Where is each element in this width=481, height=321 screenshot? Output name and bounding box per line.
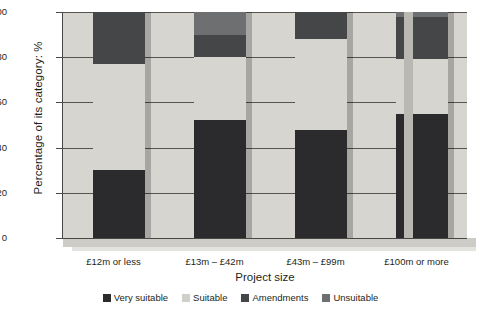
bar-segment[interactable]: [295, 12, 347, 39]
bar-side-face: [448, 12, 454, 238]
bar-segment[interactable]: [194, 12, 246, 35]
legend-item[interactable]: Very suitable: [103, 292, 168, 303]
y-tick-label: 0: [0, 232, 7, 243]
legend-swatch-icon: [322, 294, 330, 302]
legend-item[interactable]: Unsuitable: [322, 292, 378, 303]
bar-segment[interactable]: [194, 57, 246, 120]
bar-group: [366, 12, 467, 238]
legend-label: Suitable: [193, 292, 227, 303]
legend-label: Very suitable: [114, 292, 168, 303]
bar-group: [265, 12, 366, 238]
bar-segment[interactable]: [194, 35, 246, 58]
plot-wall-side-face: [404, 12, 413, 238]
x-axis-title: Project size: [63, 271, 467, 283]
bar-segment[interactable]: [93, 170, 145, 238]
y-tick-label: 100: [0, 6, 7, 17]
y-tick-label: 20: [0, 187, 7, 198]
y-tick-label: 40: [0, 142, 7, 153]
bar-segment[interactable]: [295, 39, 347, 129]
bar-segment[interactable]: [93, 64, 145, 170]
stacked-bar[interactable]: [93, 12, 145, 238]
bar-segment[interactable]: [295, 130, 347, 238]
legend-swatch-icon: [241, 294, 249, 302]
legend-swatch-icon: [182, 294, 190, 302]
legend-label: Amendments: [252, 292, 308, 303]
stacked-bar[interactable]: [295, 12, 347, 238]
bar-chart: Percentage of its category: % 0204060801…: [0, 0, 481, 321]
bar-side-face: [347, 12, 353, 238]
plot-floor: [63, 238, 476, 247]
x-tick-label: £12m or less: [63, 256, 164, 267]
legend-item[interactable]: Amendments: [241, 292, 308, 303]
y-tick-label: 80: [0, 51, 7, 62]
x-axis-line: [62, 238, 467, 239]
x-tick-label: £100m or more: [366, 256, 467, 267]
plot-floor-edge: [72, 247, 476, 251]
legend-swatch-icon: [103, 294, 111, 302]
y-axis-title: Percentage of its category: %: [32, 3, 44, 233]
legend-label: Unsuitable: [333, 292, 378, 303]
chart-legend: Very suitableSuitableAmendmentsUnsuitabl…: [0, 292, 481, 303]
bar-segment[interactable]: [194, 120, 246, 238]
x-tick-label: £43m – £99m: [265, 256, 366, 267]
x-tick-label: £13m – £42m: [164, 256, 265, 267]
y-tick-label: 60: [0, 96, 7, 107]
legend-item[interactable]: Suitable: [182, 292, 227, 303]
bar-segment[interactable]: [93, 12, 145, 64]
bar-side-face: [145, 12, 151, 238]
y-axis-line: [62, 12, 63, 239]
bar-group: [164, 12, 265, 238]
bar-side-face: [246, 12, 252, 238]
bar-group: [63, 12, 164, 238]
stacked-bar[interactable]: [194, 12, 246, 238]
